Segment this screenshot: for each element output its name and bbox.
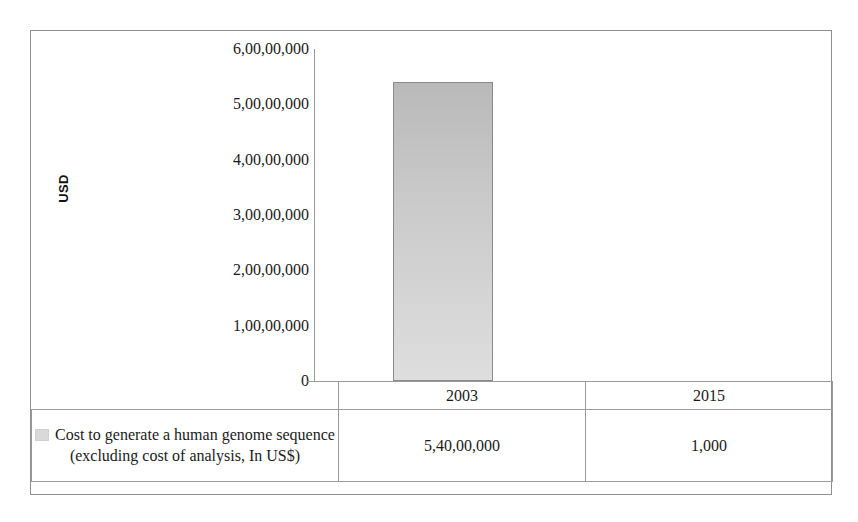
legend-swatch-icon — [35, 429, 49, 441]
table-row: Cost to generate a human genome sequence… — [32, 410, 833, 482]
plot-area: USD 6,00,00,0005,00,00,0004,00,00,0003,0… — [31, 31, 833, 383]
table-cell-value-2015: 1,000 — [585, 410, 832, 482]
y-axis-line — [314, 49, 315, 381]
y-axis-tick-label: 3,00,00,000 — [131, 207, 309, 223]
table-cell-value-2003: 5,40,00,000 — [338, 410, 585, 482]
table-cell-header-blank — [32, 382, 339, 410]
y-axis-tick-labels: 6,00,00,0005,00,00,0004,00,00,0003,00,00… — [131, 31, 309, 383]
y-axis-tick-label: 4,00,00,000 — [131, 152, 309, 168]
bar-2003 — [393, 82, 493, 381]
y-axis-title: USD — [56, 149, 71, 229]
table-cell-year-2015: 2015 — [585, 382, 832, 410]
data-table: 2003 2015 Cost to generate a human genom… — [31, 381, 833, 482]
legend-entry: Cost to generate a human genome sequence… — [32, 410, 339, 482]
y-axis-tick-label: 1,00,00,000 — [131, 318, 309, 334]
chart-frame: USD 6,00,00,0005,00,00,0004,00,00,0003,0… — [30, 30, 832, 495]
legend-label: Cost to generate a human genome sequence… — [55, 426, 335, 463]
y-axis-tick-label: 6,00,00,000 — [131, 41, 309, 57]
y-axis-tick-label: 5,00,00,000 — [131, 96, 309, 112]
table-row-header: 2003 2015 — [32, 382, 833, 410]
y-axis-tick-label: 2,00,00,000 — [131, 262, 309, 278]
table-cell-year-2003: 2003 — [338, 382, 585, 410]
